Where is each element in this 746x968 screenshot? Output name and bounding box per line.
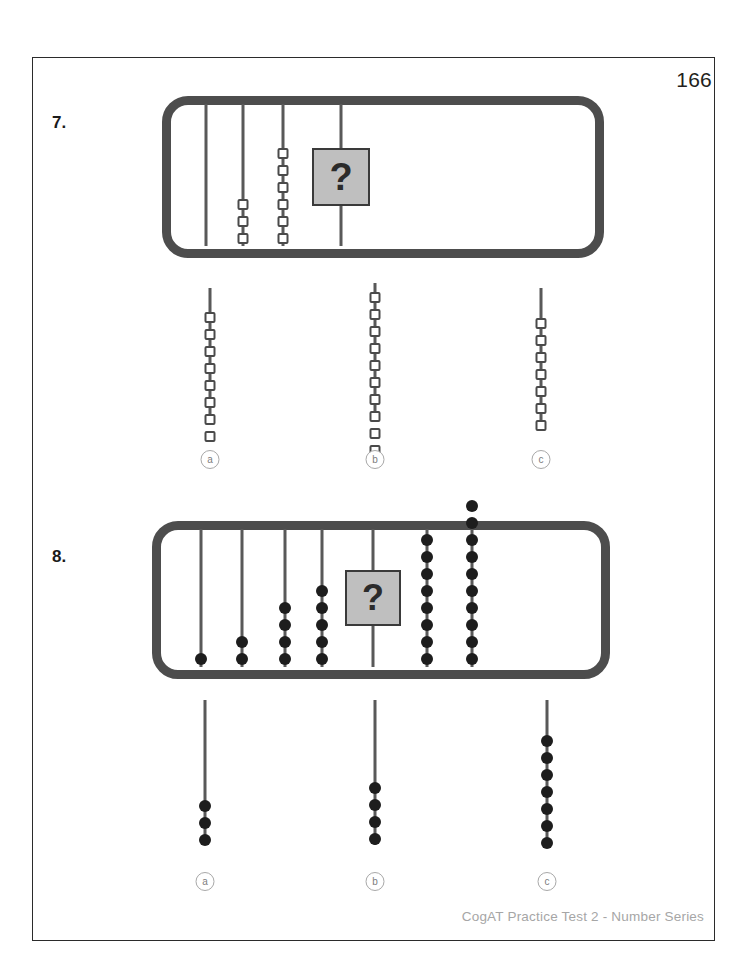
bead-q2-rod6-3	[421, 619, 433, 631]
option-bead-q1-b-3	[370, 326, 381, 337]
option-bead-q1-c-3	[536, 352, 547, 363]
bead-q2-rod4-4	[316, 602, 328, 614]
bead-q2-rod4-5	[316, 585, 328, 597]
option-bead-q1-b-6	[370, 377, 381, 388]
bead-q2-rod7-2	[466, 636, 478, 648]
bead-q2-rod3-1	[279, 653, 291, 665]
option-bead-q1-b-7	[370, 394, 381, 405]
option-bead-q1-b-1	[370, 292, 381, 303]
option-bead-q1-c-4	[536, 369, 547, 380]
bead-q2-rod7-4	[466, 602, 478, 614]
option-bead-q1-b-2	[370, 309, 381, 320]
bead-q2-rod3-4	[279, 602, 291, 614]
option-bead-q1-c-6	[536, 403, 547, 414]
option-bead-q2-b-1	[369, 782, 381, 794]
bead-q2-rod7-6	[466, 568, 478, 580]
option-bead-q1-a-7	[205, 414, 216, 425]
bead-q2-rod6-5	[421, 585, 433, 597]
bead-q2-rod1-1	[195, 653, 207, 665]
bead-q2-rod6-1	[421, 653, 433, 665]
bead-q2-rod6-4	[421, 602, 433, 614]
option-bead-q2-c-5	[541, 803, 553, 815]
bead-q2-rod7-3	[466, 619, 478, 631]
option-choice-q2-c[interactable]: c	[538, 872, 557, 891]
bead-q2-rod6-6	[421, 568, 433, 580]
bead-q1-rod3-6	[278, 148, 289, 159]
bead-q1-rod2-3	[238, 199, 249, 210]
bead-q1-rod2-1	[238, 233, 249, 244]
option-bead-q2-c-4	[541, 786, 553, 798]
page-number: 166	[676, 68, 712, 92]
abacus-frame-q1	[162, 96, 604, 258]
bead-q1-rod3-2	[278, 216, 289, 227]
question-mark-box-q1: ?	[312, 148, 370, 206]
bead-q1-rod3-5	[278, 165, 289, 176]
option-bead-q2-a-3	[199, 834, 211, 846]
bead-q2-rod2-2	[236, 636, 248, 648]
bead-q2-rod3-2	[279, 636, 291, 648]
bead-q2-rod4-2	[316, 636, 328, 648]
abacus-rod-q2-1	[200, 529, 203, 667]
bead-q1-rod3-1	[278, 233, 289, 244]
bead-q2-rod6-2	[421, 636, 433, 648]
bead-q2-rod7-1	[466, 653, 478, 665]
option-bead-q1-b-4	[370, 343, 381, 354]
option-bead-q2-c-2	[541, 752, 553, 764]
bead-q2-rod7-5	[466, 585, 478, 597]
option-bead-q1-c-2	[536, 335, 547, 346]
option-bead-q1-a-6	[205, 397, 216, 408]
bead-q1-rod2-2	[238, 216, 249, 227]
option-bead-q1-b-9	[370, 428, 381, 439]
abacus-rod-q1-1	[205, 104, 208, 246]
bead-q2-rod7-10	[466, 500, 478, 512]
bead-q2-rod3-3	[279, 619, 291, 631]
option-bead-q1-c-1	[536, 318, 547, 329]
bead-q2-rod7-7	[466, 551, 478, 563]
option-bead-q2-b-4	[369, 833, 381, 845]
option-bead-q2-a-1	[199, 800, 211, 812]
option-bead-q1-b-5	[370, 360, 381, 371]
bead-q2-rod7-9	[466, 517, 478, 529]
worksheet-page: 166 7.?abc8.?abc CogAT Practice Test 2 -…	[0, 0, 746, 968]
bead-q2-rod4-3	[316, 619, 328, 631]
page-footer: CogAT Practice Test 2 - Number Series	[462, 909, 704, 924]
option-bead-q2-b-3	[369, 816, 381, 828]
bead-q1-rod3-4	[278, 182, 289, 193]
option-bead-q1-a-8	[205, 431, 216, 442]
question-mark-box-q2: ?	[345, 570, 401, 626]
option-bead-q1-a-1	[205, 312, 216, 323]
option-choice-q1-a[interactable]: a	[201, 450, 220, 469]
bead-q2-rod6-7	[421, 551, 433, 563]
option-bead-q2-c-3	[541, 769, 553, 781]
option-bead-q1-b-8	[370, 411, 381, 422]
option-bead-q2-c-6	[541, 820, 553, 832]
option-choice-q2-b[interactable]: b	[366, 872, 385, 891]
bead-q1-rod3-3	[278, 199, 289, 210]
option-choice-q1-c[interactable]: c	[532, 450, 551, 469]
option-bead-q1-c-5	[536, 386, 547, 397]
bead-q2-rod6-8	[421, 534, 433, 546]
option-bead-q1-a-3	[205, 346, 216, 357]
option-choice-q1-b[interactable]: b	[366, 450, 385, 469]
option-bead-q1-c-7	[536, 420, 547, 431]
option-bead-q2-c-7	[541, 837, 553, 849]
bead-q2-rod4-1	[316, 653, 328, 665]
option-bead-q1-a-5	[205, 380, 216, 391]
bead-q2-rod2-1	[236, 653, 248, 665]
question-number-2: 8.	[52, 547, 66, 567]
option-bead-q1-a-4	[205, 363, 216, 374]
option-bead-q1-a-2	[205, 329, 216, 340]
option-bead-q2-b-2	[369, 799, 381, 811]
question-number-1: 7.	[52, 113, 66, 133]
option-bead-q2-c-1	[541, 735, 553, 747]
option-bead-q2-a-2	[199, 817, 211, 829]
option-choice-q2-a[interactable]: a	[196, 872, 215, 891]
bead-q2-rod7-8	[466, 534, 478, 546]
